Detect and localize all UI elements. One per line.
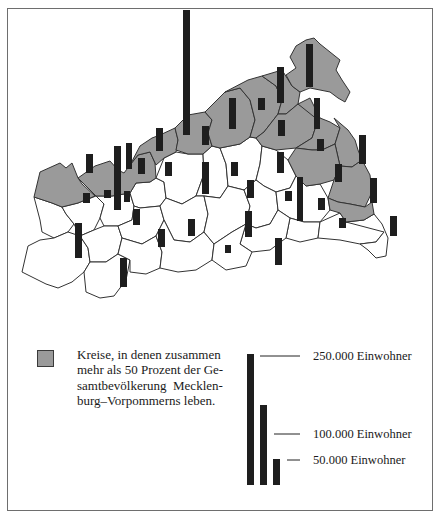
choropleth-map bbox=[0, 0, 441, 522]
legend-line: Kreise, in denen zusammen bbox=[77, 347, 227, 362]
population-bar-ribnitz bbox=[229, 98, 236, 129]
population-bar-ueckermuende bbox=[370, 178, 377, 203]
scale-label-250000: 250.000 Einwohner bbox=[313, 349, 412, 364]
population-bar-teterow bbox=[231, 162, 238, 176]
population-bar-bad-doberan bbox=[156, 128, 163, 151]
population-bar-roebel bbox=[120, 258, 127, 287]
population-bar-guestrow bbox=[202, 162, 209, 194]
population-bar-luebz-area bbox=[104, 190, 111, 198]
population-bar-greifswald-land bbox=[317, 139, 324, 151]
population-bar-friedland bbox=[318, 198, 325, 210]
population-bar-schwerin-land bbox=[124, 191, 130, 202]
population-bar-prenzlau bbox=[390, 216, 397, 236]
population-bar-strasburg bbox=[339, 218, 346, 228]
scale-bar-50000 bbox=[273, 459, 280, 485]
legend-line: samtbevölkerung Mecklen- bbox=[77, 378, 227, 393]
population-bar-neustrelitz bbox=[275, 238, 282, 265]
population-bar-luebz bbox=[158, 229, 165, 247]
legend-line: mehr als 50 Prozent der Ge- bbox=[77, 362, 227, 377]
legend-highlight-swatch bbox=[37, 350, 54, 367]
population-bar-hagenow-north bbox=[83, 193, 90, 203]
population-bar-stralsund-land bbox=[258, 98, 265, 110]
population-bar-rostock-land bbox=[202, 126, 209, 145]
population-bar-malchin bbox=[277, 152, 284, 173]
population-bar-grevesmuehlen-area bbox=[138, 158, 145, 174]
population-bar-parchim bbox=[133, 209, 140, 225]
population-bar-templin bbox=[245, 211, 252, 237]
scale-bar-250000 bbox=[247, 354, 254, 485]
district-strasburg bbox=[286, 218, 320, 242]
population-bar-schwerin bbox=[114, 146, 121, 210]
population-bar-wolgast bbox=[359, 135, 366, 164]
population-bar-wismar bbox=[126, 143, 132, 169]
legend-highlight-text: Kreise, in denen zusammen mehr als 50 Pr… bbox=[77, 347, 227, 409]
population-bar-rostock bbox=[183, 10, 190, 135]
scale-label-100000: 100.000 Einwohner bbox=[313, 427, 412, 442]
population-bar-sternberg bbox=[165, 162, 172, 176]
population-bar-waren bbox=[188, 219, 195, 236]
population-bar-ruegen bbox=[306, 44, 313, 87]
population-bar-greifswald bbox=[314, 98, 320, 129]
population-bar-nordwestmecklenburg bbox=[86, 154, 93, 173]
population-bar-grimmen bbox=[278, 120, 285, 136]
legend-scale-bars bbox=[247, 354, 300, 485]
population-bar-stralsund bbox=[277, 67, 284, 103]
population-bar-mueritz bbox=[225, 245, 231, 253]
legend-line: burg–Vorpommerns leben. bbox=[77, 393, 227, 408]
population-bar-anklam bbox=[335, 164, 342, 182]
scale-bar-100000 bbox=[260, 405, 267, 485]
population-bar-demmin-west bbox=[247, 180, 254, 198]
scale-label-50000: 50.000 Einwohner bbox=[313, 453, 405, 468]
population-bar-neubrandenburg bbox=[297, 177, 303, 221]
population-bar-ludwigslust bbox=[75, 223, 82, 258]
population-bar-altentreptow bbox=[285, 191, 292, 201]
